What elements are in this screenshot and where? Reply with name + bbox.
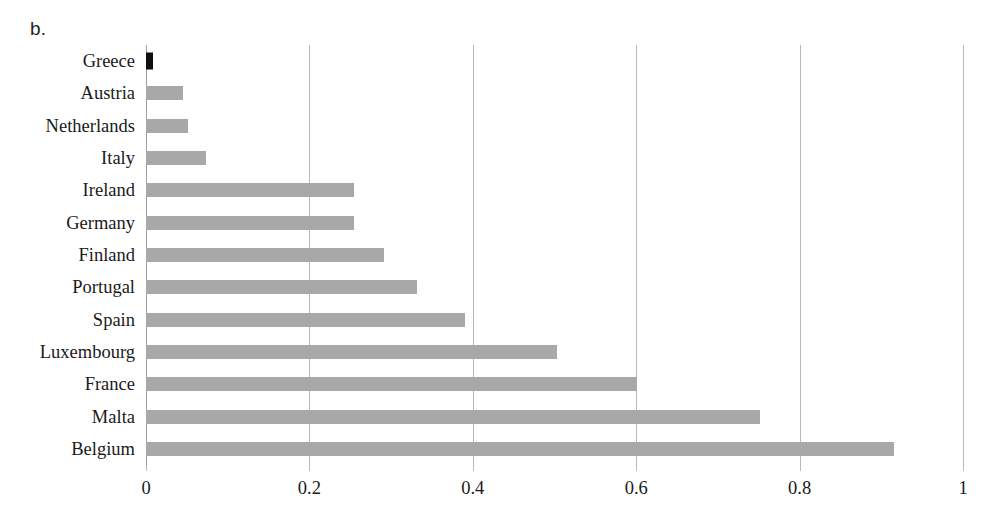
bar bbox=[146, 119, 188, 133]
category-label: Malta bbox=[92, 407, 135, 426]
bar bbox=[146, 377, 637, 391]
bar bbox=[146, 345, 557, 359]
bar-row: Ireland bbox=[146, 174, 963, 206]
category-label: Ireland bbox=[83, 181, 135, 200]
bar bbox=[146, 216, 354, 230]
bar bbox=[146, 86, 183, 100]
category-label: Portugal bbox=[72, 278, 135, 297]
plot-area: GreeceAustriaNetherlandsItalyIrelandGerm… bbox=[146, 45, 963, 465]
bar-row: Germany bbox=[146, 207, 963, 239]
bar bbox=[146, 151, 206, 165]
category-label: Finland bbox=[78, 246, 135, 265]
bar bbox=[146, 183, 354, 197]
bar-row: Luxembourg bbox=[146, 336, 963, 368]
x-tick-label: 0.2 bbox=[298, 479, 321, 498]
category-label: Spain bbox=[93, 310, 135, 329]
category-label: Italy bbox=[101, 149, 135, 168]
x-tick-mark bbox=[146, 465, 147, 471]
bar bbox=[146, 280, 417, 294]
x-tick-mark bbox=[963, 465, 964, 471]
x-tick-mark bbox=[636, 465, 637, 471]
x-tick-label: 0.6 bbox=[625, 479, 648, 498]
category-label: Austria bbox=[81, 84, 135, 103]
bar-row: Portugal bbox=[146, 271, 963, 303]
x-tick-label: 1 bbox=[958, 479, 967, 498]
gridline-1 bbox=[963, 45, 964, 465]
category-label: Belgium bbox=[71, 440, 135, 459]
bar bbox=[146, 410, 760, 424]
panel-letter: b. bbox=[30, 18, 46, 40]
category-label: Luxembourg bbox=[40, 343, 135, 362]
category-label: Greece bbox=[83, 52, 135, 71]
x-tick-label: 0 bbox=[141, 479, 150, 498]
bar bbox=[146, 442, 894, 456]
x-axis: 00.20.40.60.81 bbox=[146, 465, 963, 505]
bar-row: Spain bbox=[146, 303, 963, 335]
figure-panel-b: b. GreeceAustriaNetherlandsItalyIrelandG… bbox=[0, 0, 996, 525]
bar-row: Malta bbox=[146, 400, 963, 432]
bar-row: Finland bbox=[146, 239, 963, 271]
category-label: Netherlands bbox=[46, 117, 135, 136]
bar-row: Austria bbox=[146, 77, 963, 109]
bar bbox=[146, 313, 465, 327]
bar-row: Belgium bbox=[146, 433, 963, 465]
category-label: Germany bbox=[66, 213, 135, 232]
x-tick-label: 0.8 bbox=[788, 479, 811, 498]
bar-row: Italy bbox=[146, 142, 963, 174]
x-tick-mark bbox=[473, 465, 474, 471]
category-label: France bbox=[85, 375, 135, 394]
x-tick-mark bbox=[800, 465, 801, 471]
x-tick-mark bbox=[309, 465, 310, 471]
bar-row: Greece bbox=[146, 45, 963, 77]
bar bbox=[146, 53, 153, 70]
bar bbox=[146, 248, 384, 262]
x-tick-label: 0.4 bbox=[461, 479, 484, 498]
bar-row: Netherlands bbox=[146, 110, 963, 142]
bar-row: France bbox=[146, 368, 963, 400]
